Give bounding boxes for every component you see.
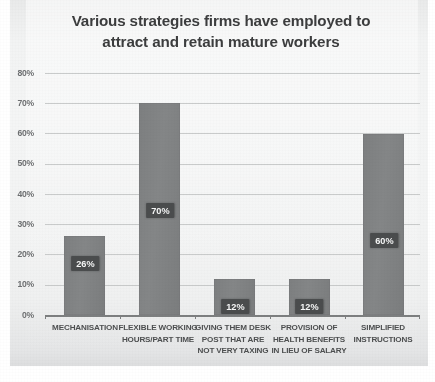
bar-value-label-provision-of-health: 12% bbox=[295, 299, 323, 314]
y-axis-label-50: 50% bbox=[0, 158, 34, 168]
bar-mechanisation[interactable] bbox=[64, 236, 105, 315]
bar-simplified-instructions[interactable] bbox=[363, 134, 404, 316]
x-axis-tick-5 bbox=[419, 315, 420, 319]
x-axis-tick-1 bbox=[120, 315, 121, 319]
bar-value-label-flexible-working: 70% bbox=[146, 203, 174, 218]
x-axis-category-simplified-instructions: SIMPLIFIED INSTRUCTIONS bbox=[340, 322, 426, 345]
chart-title: Various strategies firms have employed t… bbox=[28, 10, 414, 52]
category-line: IN LIEU OF SALARY bbox=[263, 345, 355, 357]
y-axis-label-20: 20% bbox=[0, 249, 34, 259]
bar-value-label-simplified-instructions: 60% bbox=[370, 233, 398, 248]
x-axis-tick-2 bbox=[195, 315, 196, 319]
category-line: INSTRUCTIONS bbox=[340, 334, 426, 346]
bar-value-label-giving-them-desk: 12% bbox=[221, 299, 249, 314]
x-axis-tick-0 bbox=[45, 315, 46, 319]
x-axis-tick-3 bbox=[270, 315, 271, 319]
y-axis-label-70: 70% bbox=[0, 98, 34, 108]
y-axis-label-40: 40% bbox=[0, 189, 34, 199]
bar-value-label-mechanisation: 26% bbox=[71, 256, 99, 271]
gridline-70 bbox=[45, 103, 420, 104]
x-axis-line bbox=[45, 315, 420, 317]
y-axis-label-0: 0% bbox=[0, 310, 34, 320]
category-line: SIMPLIFIED bbox=[340, 322, 426, 334]
y-axis-label-30: 30% bbox=[0, 219, 34, 229]
chart-title-line-1: Various strategies firms have employed t… bbox=[28, 10, 414, 31]
y-axis-label-80: 80% bbox=[0, 68, 34, 78]
y-axis-label-10: 10% bbox=[0, 279, 34, 289]
gridline-80 bbox=[45, 73, 420, 74]
chart-title-line-2: attract and retain mature workers bbox=[28, 31, 414, 52]
x-axis-tick-4 bbox=[345, 315, 346, 319]
y-axis-label-60: 60% bbox=[0, 128, 34, 138]
plot-area bbox=[45, 73, 420, 315]
bar-chart-screenshot: Various strategies firms have employed t… bbox=[0, 0, 435, 382]
